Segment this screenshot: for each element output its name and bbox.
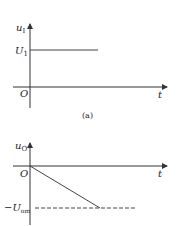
output-ramp-line	[30, 166, 100, 208]
diagram-canvas: uI U1 O t (a) uO O t −Uom	[0, 0, 181, 226]
caption-a: (a)	[82, 111, 93, 120]
diagram-b: uO O t −Uom	[4, 140, 167, 225]
level-label-uom: −Uom	[4, 202, 30, 214]
level-label-u1: U1	[15, 45, 28, 58]
origin-label-a: O	[20, 88, 28, 99]
origin-label-b: O	[20, 168, 28, 179]
y-axis-label-a: uI	[16, 22, 25, 35]
x-axis-label-a: t	[158, 89, 163, 100]
x-axis-label-b: t	[158, 168, 163, 179]
diagram-a: uI U1 O t (a)	[13, 22, 167, 120]
y-axis-label-b: uO	[15, 140, 27, 153]
